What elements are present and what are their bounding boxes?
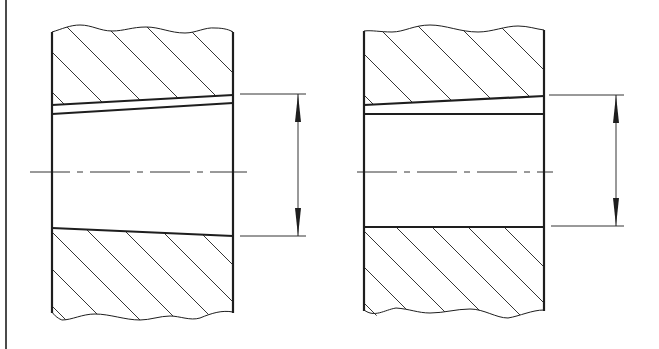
left-bore-bottom <box>52 228 233 236</box>
right-bottom-hatching <box>261 200 617 340</box>
technical-drawing <box>0 0 659 349</box>
left-bottom-break-line <box>52 311 233 320</box>
right-top-break-line <box>364 25 544 32</box>
left-top-break-line <box>52 25 233 33</box>
left-dim-arrow-up-icon <box>295 94 301 122</box>
right-dim-arrow-up-icon <box>613 95 619 123</box>
left-bore-top-outer <box>52 95 233 105</box>
right-view <box>248 0 645 340</box>
left-top-hatching <box>0 0 330 130</box>
right-dim-arrow-down-icon <box>613 198 619 226</box>
left-bore-top-inner <box>52 103 233 114</box>
left-bottom-hatching <box>0 200 308 340</box>
right-bore-top-outer <box>364 96 544 105</box>
right-top-hatching <box>248 0 645 130</box>
right-bottom-break-line <box>364 308 544 318</box>
section-drawing-canvas <box>0 0 659 349</box>
left-view <box>0 0 330 340</box>
left-dim-arrow-down-icon <box>295 208 301 236</box>
